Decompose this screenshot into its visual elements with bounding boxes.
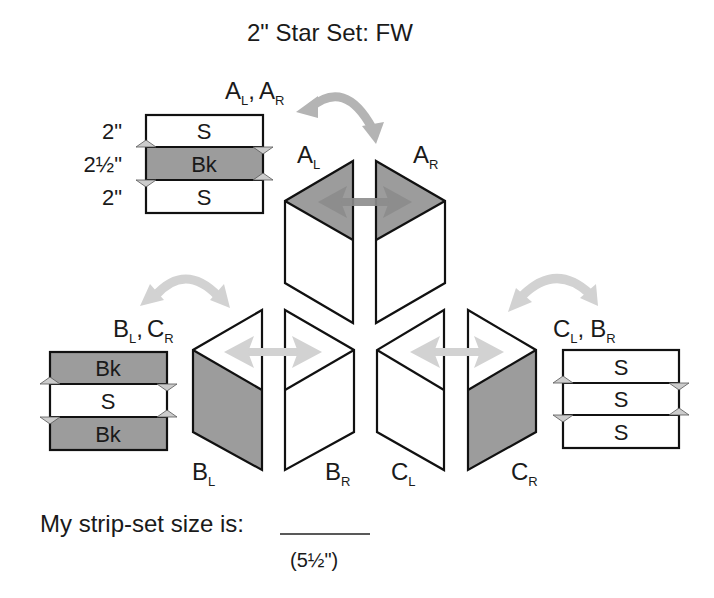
piece-b-right bbox=[285, 310, 354, 470]
band-label: S bbox=[197, 119, 212, 144]
piece-label-cr: CR bbox=[511, 458, 538, 489]
svg-text:AL,AR: AL,AR bbox=[225, 77, 284, 108]
band-label: Bk bbox=[191, 152, 218, 177]
strip-set-b: Bk S Bk bbox=[40, 352, 177, 450]
band-label: S bbox=[614, 355, 629, 380]
strip-set-size-prompt: My strip-set size is: bbox=[40, 510, 244, 537]
piece-label-bl: BL bbox=[192, 458, 215, 489]
piece-a-left bbox=[285, 161, 353, 323]
band-label: Bk bbox=[95, 422, 122, 447]
right-curved-arrow-icon bbox=[508, 278, 598, 312]
band-label: S bbox=[614, 387, 629, 412]
strip-set-c-label: CL,BR bbox=[553, 315, 616, 346]
band-label: Bk bbox=[95, 356, 122, 381]
piece-c-right bbox=[468, 310, 536, 470]
swap-curved-arrow-icon bbox=[296, 96, 384, 144]
piece-label-al: AL bbox=[297, 141, 320, 172]
left-curved-arrow-icon bbox=[140, 279, 230, 308]
strip-set-a-label: AL,AR bbox=[225, 77, 284, 108]
star-set-diagram: 2" Star Set: FW AL,AR S Bk S 2" 2½" 2" bbox=[0, 0, 714, 598]
piece-b-left bbox=[193, 310, 262, 470]
size-hint: (5½") bbox=[290, 549, 338, 571]
dimension-label: 2½" bbox=[84, 152, 122, 177]
band-label: S bbox=[101, 389, 116, 414]
band-label: S bbox=[197, 185, 212, 210]
dimension-label: 2" bbox=[102, 119, 122, 144]
strip-set-c: S S S bbox=[553, 350, 689, 448]
strip-set-b-label: BL,CR bbox=[113, 315, 174, 346]
band-label: S bbox=[614, 420, 629, 445]
piece-a-right bbox=[376, 161, 445, 323]
piece-c-left bbox=[377, 310, 444, 470]
piece-label-ar: AR bbox=[413, 141, 438, 172]
piece-label-br: BR bbox=[325, 458, 350, 489]
strip-set-a: S Bk S bbox=[136, 115, 273, 213]
piece-label-cl: CL bbox=[391, 458, 416, 489]
diagram-title: 2" Star Set: FW bbox=[247, 19, 413, 46]
dimension-label: 2" bbox=[102, 185, 122, 210]
